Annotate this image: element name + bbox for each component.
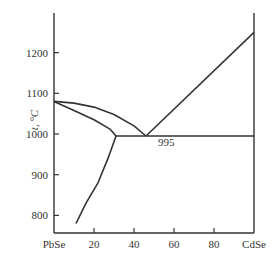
y-tick-label: 800 <box>32 209 49 221</box>
y-tick-label: 1100 <box>26 87 48 99</box>
y-axis-title: t, °C <box>28 109 40 130</box>
phase-boundary-line <box>146 32 254 136</box>
x-tick-label: 40 <box>129 238 141 250</box>
x-tick-label: CdSe <box>242 238 266 250</box>
phase-boundary-line <box>76 136 116 224</box>
x-tick-label: PbSe <box>43 238 66 250</box>
x-tick-label: 60 <box>169 238 181 250</box>
y-tick-label: 900 <box>32 169 49 181</box>
axes <box>54 13 254 233</box>
phase-boundary-line <box>54 101 146 136</box>
x-ticks: PbSe20406080CdSe <box>43 228 266 250</box>
phase-diagram: 800900100011001200 PbSe20406080CdSe 995 … <box>0 0 275 259</box>
annotations: 995 <box>158 136 175 148</box>
phase-boundary-line <box>54 101 116 136</box>
phase-boundaries <box>54 32 254 223</box>
x-tick-label: 80 <box>209 238 221 250</box>
eutectic-temperature-label: 995 <box>158 136 175 148</box>
x-tick-label: 20 <box>89 238 101 250</box>
y-tick-label: 1200 <box>26 47 49 59</box>
